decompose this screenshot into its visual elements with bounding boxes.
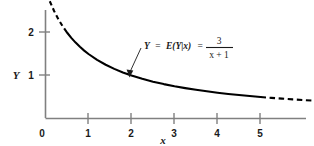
x-tick-label-2: 2 <box>128 128 134 139</box>
x-axis-title: x <box>159 134 166 146</box>
equation-numerator: 3 <box>217 36 222 46</box>
x-tick-label-1: 1 <box>85 128 91 139</box>
equation-lhs: Y <box>144 41 151 51</box>
x-tick-label-0: 0 <box>39 128 45 139</box>
equation-equals-2: = <box>198 41 203 51</box>
y-tick-label-2: 2 <box>28 27 34 38</box>
chart-svg: 2 1 0 1 2 3 4 5 Y x Y = E(Y|x) = 3 x + 1 <box>0 0 314 146</box>
equation-equals-1: = <box>155 41 160 51</box>
x-tick-label-5: 5 <box>257 128 263 139</box>
x-tick-label-3: 3 <box>171 128 177 139</box>
equation-function: E(Y|x) <box>165 41 191 52</box>
chart-background <box>0 0 314 146</box>
y-tick-label-1: 1 <box>28 70 34 81</box>
figure-container: 2 1 0 1 2 3 4 5 Y x Y = E(Y|x) = 3 x + 1 <box>0 0 314 146</box>
x-tick-label-4: 4 <box>214 128 220 139</box>
equation-denominator: x + 1 <box>209 50 229 60</box>
